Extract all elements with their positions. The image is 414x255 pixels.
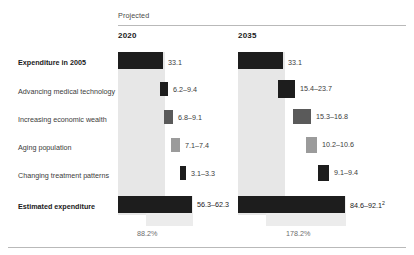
value-2020-expenditure-2005: 33.1 — [168, 59, 182, 66]
bar-2020-estimated-expenditure — [118, 196, 192, 213]
bar-2020-expenditure-2005 — [118, 52, 163, 69]
value-2020-increasing-econ-wealth: 6.8–9.1 — [178, 114, 202, 121]
value-2035-total-text: 84.6–92.1 — [350, 201, 382, 210]
bar-2035-expenditure-2005 — [238, 52, 283, 69]
value-2020-changing-treatment: 3.1–3.3 — [191, 170, 215, 177]
value-2035-expenditure-2005: 33.1 — [288, 59, 302, 66]
bar-2035-increasing-econ-wealth — [293, 109, 311, 124]
growth-percent-2035: 178.2% — [286, 230, 310, 237]
bar-2035-changing-treatment — [318, 165, 329, 181]
bar-2035-aging-population — [306, 137, 317, 153]
bar-2020-advancing-medical-tech — [160, 82, 168, 96]
value-2020-advancing-medical-tech: 6.2–9.4 — [173, 86, 197, 93]
bar-2020-aging-population — [171, 138, 180, 152]
cumulative-column-2035 — [238, 52, 285, 215]
value-2035-increasing-econ-wealth: 15.3–16.8 — [316, 113, 348, 120]
header-rule — [118, 25, 406, 26]
column-header-2035: 2035 — [238, 31, 257, 40]
row-label-advancing-medical-tech: Advancing medical technology — [18, 88, 115, 95]
row-label-increasing-econ-wealth: Increasing economic wealth — [18, 116, 107, 123]
cumulative-column-2020 — [118, 52, 165, 215]
value-2035-advancing-medical-tech: 15.4–23.7 — [300, 85, 332, 92]
footer-rule — [8, 247, 406, 248]
value-2020-aging-population: 7.1–7.4 — [185, 142, 209, 149]
value-2035-estimated-expenditure: 84.6–92.12 — [350, 201, 385, 210]
bar-2035-advancing-medical-tech — [278, 80, 295, 98]
column-header-2020: 2020 — [118, 31, 137, 40]
row-label-aging-population: Aging population — [18, 144, 72, 151]
growth-percent-2020: 88.2% — [137, 230, 157, 237]
value-2020-estimated-expenditure: 56.3–62.3 — [197, 201, 229, 208]
value-2035-aging-population: 10.2–10.6 — [322, 141, 354, 148]
row-label-estimated-expenditure: Estimated expenditure — [18, 203, 95, 210]
bar-2035-estimated-expenditure — [238, 196, 345, 213]
row-label-changing-treatment: Changing treatment patterns — [18, 172, 109, 179]
row-label-expenditure-2005: Expenditure in 2005 — [18, 59, 86, 66]
value-2035-changing-treatment: 9.1–9.4 — [334, 169, 358, 176]
bar-2020-increasing-econ-wealth — [164, 110, 173, 124]
total-footnote-marker: 2 — [382, 200, 385, 206]
projected-label: Projected — [118, 11, 149, 20]
bar-2020-changing-treatment — [180, 166, 186, 180]
waterfall-chart: Projected 2020 2035 Expenditure in 2005 … — [0, 0, 414, 255]
